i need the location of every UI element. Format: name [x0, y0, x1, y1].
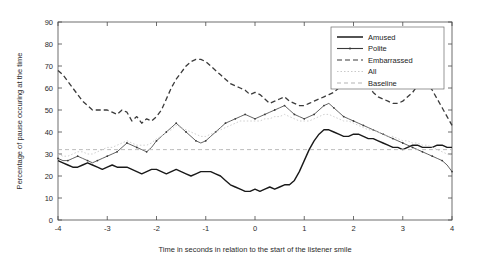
legend-label-all: All [368, 67, 377, 76]
series-marker-polite [264, 114, 266, 116]
y-tick-label: 50 [45, 106, 53, 115]
series-marker-polite [431, 155, 433, 157]
series-marker-polite [402, 142, 404, 144]
series-marker-polite [67, 160, 69, 162]
series-marker-polite [412, 147, 414, 149]
series-marker-polite [146, 151, 148, 153]
series-marker-polite [313, 114, 315, 116]
x-tick-label: 3 [401, 224, 405, 233]
y-tick-label: 90 [45, 18, 53, 27]
series-marker-polite [274, 109, 276, 111]
series-marker-polite [126, 142, 128, 144]
y-tick-label: 30 [45, 150, 53, 159]
y-tick-label: 60 [45, 84, 53, 93]
legend-label-embarrassed: Embarrassed [368, 56, 413, 65]
y-tick-label: 70 [45, 62, 53, 71]
series-marker-polite [116, 151, 118, 153]
series-marker-polite [97, 160, 99, 162]
y-tick-label: 80 [45, 40, 53, 49]
series-marker-polite [323, 105, 325, 107]
x-tick-label: 1 [302, 224, 306, 233]
series-marker-polite [422, 151, 424, 153]
series-marker-polite [294, 114, 296, 116]
x-tick-label: 0 [253, 224, 257, 233]
series-marker-polite [392, 138, 394, 140]
series-marker-polite [205, 140, 207, 142]
y-tick-label: 10 [45, 194, 53, 203]
series-marker-polite [156, 140, 158, 142]
series-marker-polite [225, 122, 227, 124]
series-marker-polite [303, 118, 305, 120]
series-marker-polite [175, 122, 177, 124]
series-marker-polite [441, 160, 443, 162]
series-marker-polite [284, 105, 286, 107]
series-marker-polite [195, 140, 197, 142]
series-marker-polite [106, 155, 108, 157]
figure-container: -4-3-2-101234 0102030405060708090 Time i… [0, 0, 477, 260]
x-tick-label: -1 [202, 224, 209, 233]
x-axis-title: Time in seconds in relation to the start… [158, 245, 351, 254]
series-marker-polite [244, 114, 246, 116]
x-tick-label: -2 [153, 224, 160, 233]
legend-label-amused: Amused [368, 33, 396, 42]
series-marker-polite [451, 171, 453, 173]
series-marker-polite [234, 118, 236, 120]
x-tick-label: -3 [104, 224, 111, 233]
x-tick-label: 4 [450, 224, 454, 233]
series-marker-polite [77, 155, 79, 157]
line-chart: -4-3-2-101234 0102030405060708090 Time i… [0, 0, 477, 260]
series-marker-polite [254, 118, 256, 120]
legend-label-polite: Polite [368, 44, 387, 53]
series-marker-polite [57, 158, 59, 160]
series-marker-polite [343, 116, 345, 118]
y-tick-label: 0 [49, 216, 53, 225]
x-tick-label: 2 [351, 224, 355, 233]
y-axis-title: Percentage of pause occuring at the time [15, 53, 24, 190]
series-marker-polite [353, 120, 355, 122]
legend-label-baseline: Baseline [368, 79, 397, 88]
x-tick-label: -4 [55, 224, 62, 233]
series-marker-polite [136, 147, 138, 149]
chart-legend: AmusedPoliteEmbarrassedAllBaseline [331, 27, 444, 89]
y-tick-label: 20 [45, 172, 53, 181]
series-marker-polite [185, 131, 187, 133]
series-marker-polite [87, 160, 89, 162]
legend-marker-polite [349, 47, 351, 49]
y-tick-label: 40 [45, 128, 53, 137]
series-marker-polite [333, 107, 335, 109]
series-marker-polite [362, 125, 364, 127]
